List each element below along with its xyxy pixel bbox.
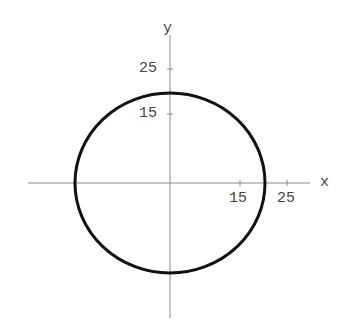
x-tick-15: 15 <box>229 190 247 207</box>
x-tick-25: 25 <box>277 190 295 207</box>
y-axis-label: y <box>163 20 172 37</box>
x-axis-label: x <box>320 174 329 191</box>
chart: y x 25 15 15 25 <box>0 0 345 326</box>
y-tick-15: 15 <box>139 105 157 122</box>
y-tick-25: 25 <box>139 60 157 77</box>
plot-area <box>0 0 345 326</box>
